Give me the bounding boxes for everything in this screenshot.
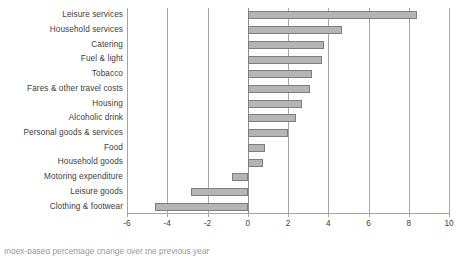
caption-text: Index-based percentage change over the p…	[4, 249, 209, 256]
category-label: Clothing & footwear	[0, 199, 128, 214]
bar	[155, 203, 248, 211]
category-label: Fares & other travel costs	[0, 82, 128, 97]
bar	[248, 26, 343, 34]
bar	[248, 56, 322, 64]
x-tick-label: -4	[164, 219, 171, 228]
gridline	[449, 8, 450, 214]
tick-mark	[288, 214, 289, 217]
category-label: Fuel & light	[0, 52, 128, 67]
bar	[248, 114, 296, 122]
category-label: Alcoholic drink	[0, 111, 128, 126]
bar-row	[127, 37, 449, 52]
tick-mark	[127, 214, 128, 217]
bar	[248, 144, 265, 152]
category-label: Tobacco	[0, 67, 128, 82]
tick-mark	[208, 214, 209, 217]
category-label: Housing	[0, 96, 128, 111]
bars-layer	[127, 8, 449, 214]
bar-row	[127, 199, 449, 214]
bar-row	[127, 140, 449, 155]
bar-row	[127, 185, 449, 200]
category-label: Food	[0, 140, 128, 155]
bar-row	[127, 126, 449, 141]
x-tick-label: 4	[326, 219, 331, 228]
x-tick-label: 6	[366, 219, 371, 228]
bar	[191, 188, 247, 196]
x-tick-label: -2	[204, 219, 211, 228]
category-label: Motoring expenditure	[0, 170, 128, 185]
tick-mark	[369, 214, 370, 217]
category-label: Personal goods & services	[0, 126, 128, 141]
category-label: Leisure goods	[0, 185, 128, 200]
tick-mark	[328, 214, 329, 217]
bar	[248, 41, 324, 49]
x-tick-label: 8	[406, 219, 411, 228]
category-label: Household goods	[0, 155, 128, 170]
bar	[248, 159, 263, 167]
bar-row	[127, 155, 449, 170]
bar-row	[127, 82, 449, 97]
bar-row	[127, 170, 449, 185]
category-label: Leisure services	[0, 8, 128, 23]
bar	[248, 70, 312, 78]
bar-row	[127, 23, 449, 38]
bar-row	[127, 96, 449, 111]
bar-row	[127, 52, 449, 67]
plot-area	[127, 8, 449, 214]
category-label: Household services	[0, 23, 128, 38]
horizontal-bar-chart: Leisure servicesHousehold servicesCateri…	[0, 0, 459, 259]
x-tick-label: 0	[245, 219, 250, 228]
bar-row	[127, 8, 449, 23]
x-tick-label: -6	[123, 219, 130, 228]
bar	[248, 100, 302, 108]
bar	[248, 11, 417, 19]
caption-strip: Index-based percentage change over the p…	[0, 249, 459, 259]
tick-mark	[409, 214, 410, 217]
bar	[248, 129, 288, 137]
tick-mark	[167, 214, 168, 217]
category-axis-labels: Leisure servicesHousehold servicesCateri…	[0, 8, 128, 214]
bar-row	[127, 67, 449, 82]
bar	[232, 173, 248, 181]
bar	[248, 85, 310, 93]
x-tick-label: 2	[286, 219, 291, 228]
tick-mark	[248, 214, 249, 217]
x-tick-label: 10	[444, 219, 453, 228]
bar-row	[127, 111, 449, 126]
tick-mark	[449, 214, 450, 217]
x-axis-ticks: -6-4-20246810	[127, 214, 449, 234]
category-label: Catering	[0, 37, 128, 52]
